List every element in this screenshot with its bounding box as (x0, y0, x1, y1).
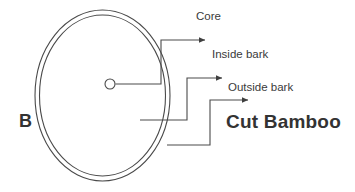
label-core: Core (196, 11, 221, 23)
label-cut-bamboo: Cut Bamboo (226, 112, 341, 131)
label-inside-bark: Inside bark (212, 49, 268, 61)
diagram-canvas: B Core Inside bark Outside bark Cut Bamb… (0, 0, 355, 192)
inside-bark-circle (40, 15, 166, 176)
outside-bark-circle (35, 10, 170, 181)
panel-letter-b: B (19, 112, 32, 130)
bamboo-cross-section-svg (0, 0, 355, 192)
core-circle (105, 79, 115, 89)
label-outside-bark: Outside bark (228, 82, 293, 94)
